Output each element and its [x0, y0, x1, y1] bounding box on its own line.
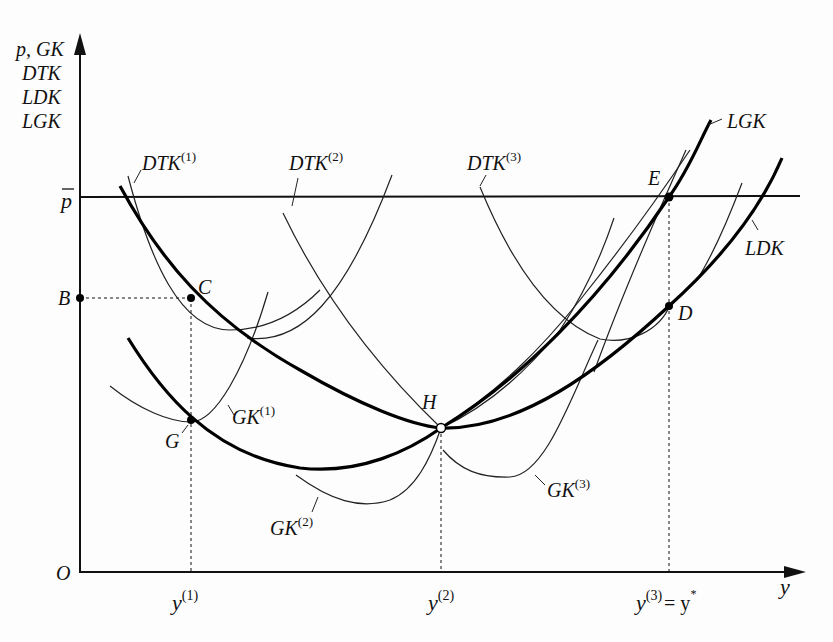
point-e [665, 193, 674, 202]
points [76, 193, 674, 433]
origin-label: O [56, 562, 70, 584]
point-b [76, 294, 84, 302]
y-axis-arrow-icon [74, 33, 86, 55]
cost-curve-diagram: p, GK DTK LDK LGK p B C G H E D DTK(1) D… [0, 0, 833, 642]
tick-y3: y(3)= y* [634, 587, 696, 615]
point-c [187, 294, 195, 302]
point-g [187, 416, 195, 424]
label-h: H [421, 391, 438, 413]
price-label-text: p [59, 188, 72, 213]
price-label: p [59, 188, 74, 213]
label-c: C [198, 276, 212, 298]
curve-gk3-upper [441, 218, 614, 428]
y-label-line-2: DTK [21, 62, 63, 84]
curve-gk2 [296, 428, 441, 504]
y-axis-label: p, GK DTK LDK LGK [14, 38, 65, 132]
curve-dtk2-right [247, 175, 392, 339]
label-lgk: LGK [726, 110, 768, 132]
price-line [80, 196, 800, 197]
label-dtk2: DTK(2) [288, 149, 343, 174]
label-dtk1: DTK(1) [141, 149, 196, 174]
curve-dtk3-steep [594, 150, 686, 372]
tick-y2: y(2) [426, 588, 454, 615]
curve-ldk [120, 158, 782, 428]
y-label-line-4: LGK [21, 110, 63, 132]
label-gk2: GK(2) [270, 514, 313, 539]
label-gk1: GK(1) [232, 403, 275, 428]
point-d [665, 302, 673, 310]
label-e: E [647, 167, 660, 189]
label-g: G [165, 430, 180, 452]
x-axis-label: y [778, 574, 790, 599]
label-d: D [677, 302, 693, 324]
diagram-canvas: p, GK DTK LDK LGK p B C G H E D DTK(1) D… [0, 0, 833, 642]
long-run-curves [120, 120, 782, 469]
point-h [437, 424, 446, 433]
label-b: B [58, 287, 70, 309]
curve-dtk1 [128, 176, 320, 330]
y-label-line-1: p, GK [14, 38, 65, 61]
tick-y1: y(1) [170, 588, 198, 615]
label-ldk: LDK [744, 237, 786, 259]
curve-gk3 [443, 340, 598, 477]
label-dtk3: DTK(3) [466, 149, 521, 174]
y-label-line-3: LDK [21, 86, 63, 108]
label-gk3: GK(3) [547, 476, 590, 501]
guide-lines [80, 197, 669, 572]
